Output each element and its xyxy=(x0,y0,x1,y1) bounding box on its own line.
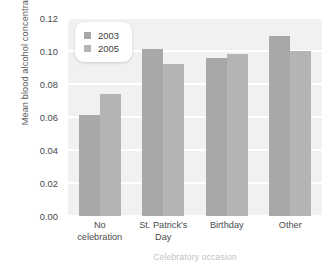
bar xyxy=(163,64,184,216)
bar xyxy=(227,54,248,216)
y-tick-label: 0.06 xyxy=(18,112,58,123)
legend-item-2003: 2003 xyxy=(84,29,119,42)
bar xyxy=(79,115,100,216)
y-tick-label: 0.02 xyxy=(18,178,58,189)
y-tick-label: 0.12 xyxy=(18,13,58,24)
x-axis-title: Celebratory occasion xyxy=(68,252,322,262)
chart-legend: 2003 2005 xyxy=(75,22,132,62)
bar xyxy=(206,58,227,216)
bar xyxy=(290,51,311,216)
bar xyxy=(100,94,121,216)
bar xyxy=(269,36,290,216)
legend-swatch-2005 xyxy=(84,45,91,52)
plot-area: 2003 2005 xyxy=(68,18,322,216)
y-tick-label: 0.10 xyxy=(18,46,58,57)
legend-swatch-2003 xyxy=(84,32,91,39)
x-tick-label: Nocelebration xyxy=(68,220,132,243)
legend-label-2003: 2003 xyxy=(98,30,119,41)
bar xyxy=(142,49,163,216)
y-tick-label: 0.04 xyxy=(18,145,58,156)
y-tick-label: 0.08 xyxy=(18,79,58,90)
legend-label-2005: 2005 xyxy=(98,43,119,54)
bar-chart-figure: Mean blood alcohol concentration 0.000.0… xyxy=(0,0,336,274)
x-tick-label: Other xyxy=(259,220,323,232)
y-tick-label: 0.00 xyxy=(18,211,58,222)
x-tick-label: Birthday xyxy=(195,220,259,232)
legend-item-2005: 2005 xyxy=(84,42,119,55)
x-tick-label: St. Patrick'sDay xyxy=(132,220,196,243)
